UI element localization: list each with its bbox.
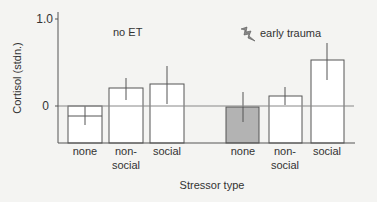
y-axis-label: Cortisol (stdn.) — [11, 42, 23, 114]
xtick-noet-none: none — [73, 145, 97, 157]
xtick-et-nonsocial-1: non- — [274, 145, 296, 157]
xtick-noet-social: social — [153, 145, 181, 157]
ytick-label-zero: 0 — [42, 99, 49, 113]
xtick-noet-nonsocial-2: social — [112, 159, 140, 171]
xtick-et-social: social — [313, 145, 341, 157]
x-axis-label: Stressor type — [180, 179, 245, 191]
bar-chart: 1.0 0 Cortisol (stdn.) no ET early traum… — [0, 0, 377, 202]
xtick-noet-nonsocial-1: non- — [115, 145, 137, 157]
xtick-et-none: none — [231, 145, 255, 157]
lightning-bolt-icon — [241, 27, 255, 41]
group-label-early-trauma: early trauma — [260, 27, 322, 39]
group-label-no-et: no ET — [113, 26, 143, 38]
ytick-label-top: 1.0 — [36, 12, 53, 26]
xtick-et-nonsocial-2: social — [271, 159, 299, 171]
